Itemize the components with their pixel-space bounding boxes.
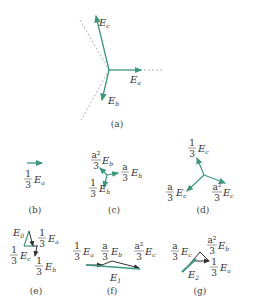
num: a² xyxy=(92,150,101,160)
vector-E1 xyxy=(86,265,140,269)
num: a² xyxy=(135,241,144,251)
panel-e: E0 1 3 Ea 1 3 Ec 1 3 Eb (e) xyxy=(10,227,59,296)
caption-c: (c) xyxy=(108,205,120,215)
term-a-3-Eb: a 3 Eb xyxy=(121,162,142,183)
term-a2-3-Ec: a² 3 Ec xyxy=(212,182,234,203)
vec: Ea xyxy=(47,233,59,245)
vec: Ec xyxy=(180,246,192,258)
panel-d: 1 3 Ec a 3 Ec a² 3 Ec (d) xyxy=(166,138,234,215)
coef-num: 1 xyxy=(25,169,31,179)
den: 3 xyxy=(211,268,217,278)
den: 3 xyxy=(136,252,142,262)
vec: Ec xyxy=(222,187,234,199)
term-a2-3-Ec: a² 3 Ec xyxy=(134,241,156,262)
vec: Ec xyxy=(19,250,31,262)
term-a2-3-Eb: a² 3 Eb xyxy=(207,235,229,256)
vec: Eb xyxy=(101,155,113,167)
panel-b: 1 3 Ea (b) xyxy=(24,163,45,215)
den: 3 xyxy=(74,252,80,262)
term-1-3-Eb: 1 3 Eb xyxy=(89,178,110,199)
num: 1 xyxy=(90,178,96,188)
term-1-3-Ea: 1 3 Ea xyxy=(210,257,231,278)
vec: Ec xyxy=(175,187,187,199)
num: a xyxy=(172,241,178,251)
vector-1-3-Eb xyxy=(35,246,37,256)
coef-den: 3 xyxy=(25,180,31,190)
panel-a: Ec Ea Eb (a) xyxy=(80,16,164,129)
label-Eb: Eb xyxy=(107,95,119,107)
label-Ea: Ea xyxy=(129,74,141,86)
vec: Eb xyxy=(130,167,142,179)
caption-a: (a) xyxy=(111,119,123,129)
num: 1 xyxy=(189,138,195,148)
vec: Ea xyxy=(82,246,94,258)
vector-a-3-Eb xyxy=(107,173,118,175)
panel-f: E1 1 3 Ea a 3 Eb a² 3 Ec (f) xyxy=(73,241,156,296)
vector-a2-3-Eb xyxy=(200,252,209,261)
label-E0: E0 xyxy=(12,227,24,239)
symmetrical-components-diagram: Ec Ea Eb (a) 1 3 Ea (b) a² 3 Eb a 3 Eb 1 xyxy=(0,0,257,307)
term-1-3-Ea: 1 3 Ea xyxy=(38,228,59,249)
num: 1 xyxy=(11,245,17,255)
term-a-3-Ec: a 3 Ec xyxy=(166,182,187,203)
term-1-3-Eb: 1 3 Eb xyxy=(35,256,56,277)
term-a-3-Eb: a 3 Eb xyxy=(101,241,122,262)
term-1-3-Ec: 1 3 Ec xyxy=(10,245,31,266)
num: a² xyxy=(208,235,217,245)
vec: Ec xyxy=(197,143,209,155)
num: a xyxy=(167,182,173,192)
caption-d: (d) xyxy=(197,205,210,215)
den: 3 xyxy=(36,267,42,277)
den: 3 xyxy=(122,173,128,183)
vector-a-3-Ec xyxy=(187,175,204,191)
term-1-3-Ea: 1 3 Ea xyxy=(73,241,94,262)
caption-f: (f) xyxy=(107,286,117,296)
num: 1 xyxy=(36,256,42,266)
panel-g: E2 a 3 Ec a² 3 Eb 1 3 Ea (g) xyxy=(171,235,231,296)
vec: Ec xyxy=(144,246,156,258)
den: 3 xyxy=(102,252,108,262)
vector-a2-3-Eb xyxy=(100,168,107,175)
den: 3 xyxy=(90,189,96,199)
den: 3 xyxy=(214,193,220,203)
num: a xyxy=(122,162,128,172)
caption-e: (e) xyxy=(30,286,42,296)
num: a xyxy=(102,241,108,251)
label-E1: E1 xyxy=(109,272,121,284)
vector-1-3-Ec xyxy=(197,158,204,175)
caption-b: (b) xyxy=(29,205,42,215)
den: 3 xyxy=(209,246,215,256)
vector-1-3-Ea xyxy=(29,231,33,246)
label-Ec: Ec xyxy=(98,17,110,29)
num: 1 xyxy=(39,228,45,238)
den: 3 xyxy=(39,239,45,249)
caption-g: (g) xyxy=(194,286,207,296)
num: 1 xyxy=(74,241,80,251)
label-Ea: Ea xyxy=(33,174,45,186)
term-1-3-Ec: 1 3 Ec xyxy=(188,138,209,159)
num: a² xyxy=(213,182,222,192)
dashed-axis-lower xyxy=(81,70,109,120)
den: 3 xyxy=(93,161,99,171)
vec: Eb xyxy=(44,261,56,273)
den: 3 xyxy=(167,193,173,203)
den: 3 xyxy=(11,256,17,266)
term-a2-3-Eb: a² 3 Eb xyxy=(91,150,113,171)
vector-1-3-Ec xyxy=(24,231,29,246)
num: 1 xyxy=(211,257,217,267)
panel-c: a² 3 Eb a 3 Eb 1 3 Eb (c) xyxy=(89,150,142,215)
vec: Ea xyxy=(219,262,231,274)
term-a-3-Ec: a 3 Ec xyxy=(171,241,192,262)
vec: Eb xyxy=(110,246,122,258)
den: 3 xyxy=(172,252,178,262)
vec: Eb xyxy=(217,240,229,252)
label-E2: E2 xyxy=(187,269,199,281)
den: 3 xyxy=(189,149,195,159)
vec: Eb xyxy=(98,183,110,195)
